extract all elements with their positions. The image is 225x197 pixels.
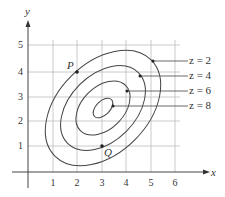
- svg-text:3: 3: [100, 177, 105, 188]
- svg-text:2: 2: [18, 115, 23, 126]
- svg-text:5: 5: [18, 39, 23, 50]
- svg-text:4: 4: [124, 177, 129, 188]
- point-p: [75, 70, 79, 74]
- svg-text:6: 6: [173, 177, 178, 188]
- contour-label-z4: z = 4: [189, 69, 212, 81]
- contour-z4-marker: [139, 75, 142, 78]
- x-axis-arrow-icon: [203, 170, 210, 175]
- contour-diagram: x y 1 2 3 4 5 6 1 2 3 4 5 z = 2 z = 4: [0, 0, 225, 197]
- y-axis-arrow-icon: [26, 20, 31, 27]
- contour-z2: [23, 28, 183, 188]
- contour-label-z2: z = 2: [189, 54, 211, 66]
- contour-z8: [90, 95, 117, 122]
- svg-text:4: 4: [18, 66, 23, 77]
- contour-label-z6: z = 6: [189, 84, 212, 96]
- y-axis-label: y: [24, 5, 30, 17]
- contour-label-z8: z = 8: [189, 99, 212, 111]
- point-q-label: Q: [104, 146, 112, 158]
- svg-text:3: 3: [18, 91, 23, 102]
- point-p-label: P: [66, 59, 74, 71]
- contour-labels: [113, 61, 188, 106]
- svg-text:1: 1: [18, 140, 23, 151]
- x-tick-labels: 1 2 3 4 5 6: [51, 177, 178, 188]
- contours: [23, 28, 183, 188]
- axes: [12, 26, 205, 188]
- y-tick-labels: 1 2 3 4 5: [18, 39, 23, 151]
- svg-text:5: 5: [149, 177, 154, 188]
- contour-z8-marker: [112, 105, 115, 108]
- svg-text:1: 1: [51, 177, 56, 188]
- contour-z4: [44, 49, 161, 166]
- contour-z6-marker: [126, 90, 129, 93]
- x-axis-label: x: [210, 166, 216, 178]
- contour-z2-marker: [152, 60, 155, 63]
- svg-text:2: 2: [75, 177, 80, 188]
